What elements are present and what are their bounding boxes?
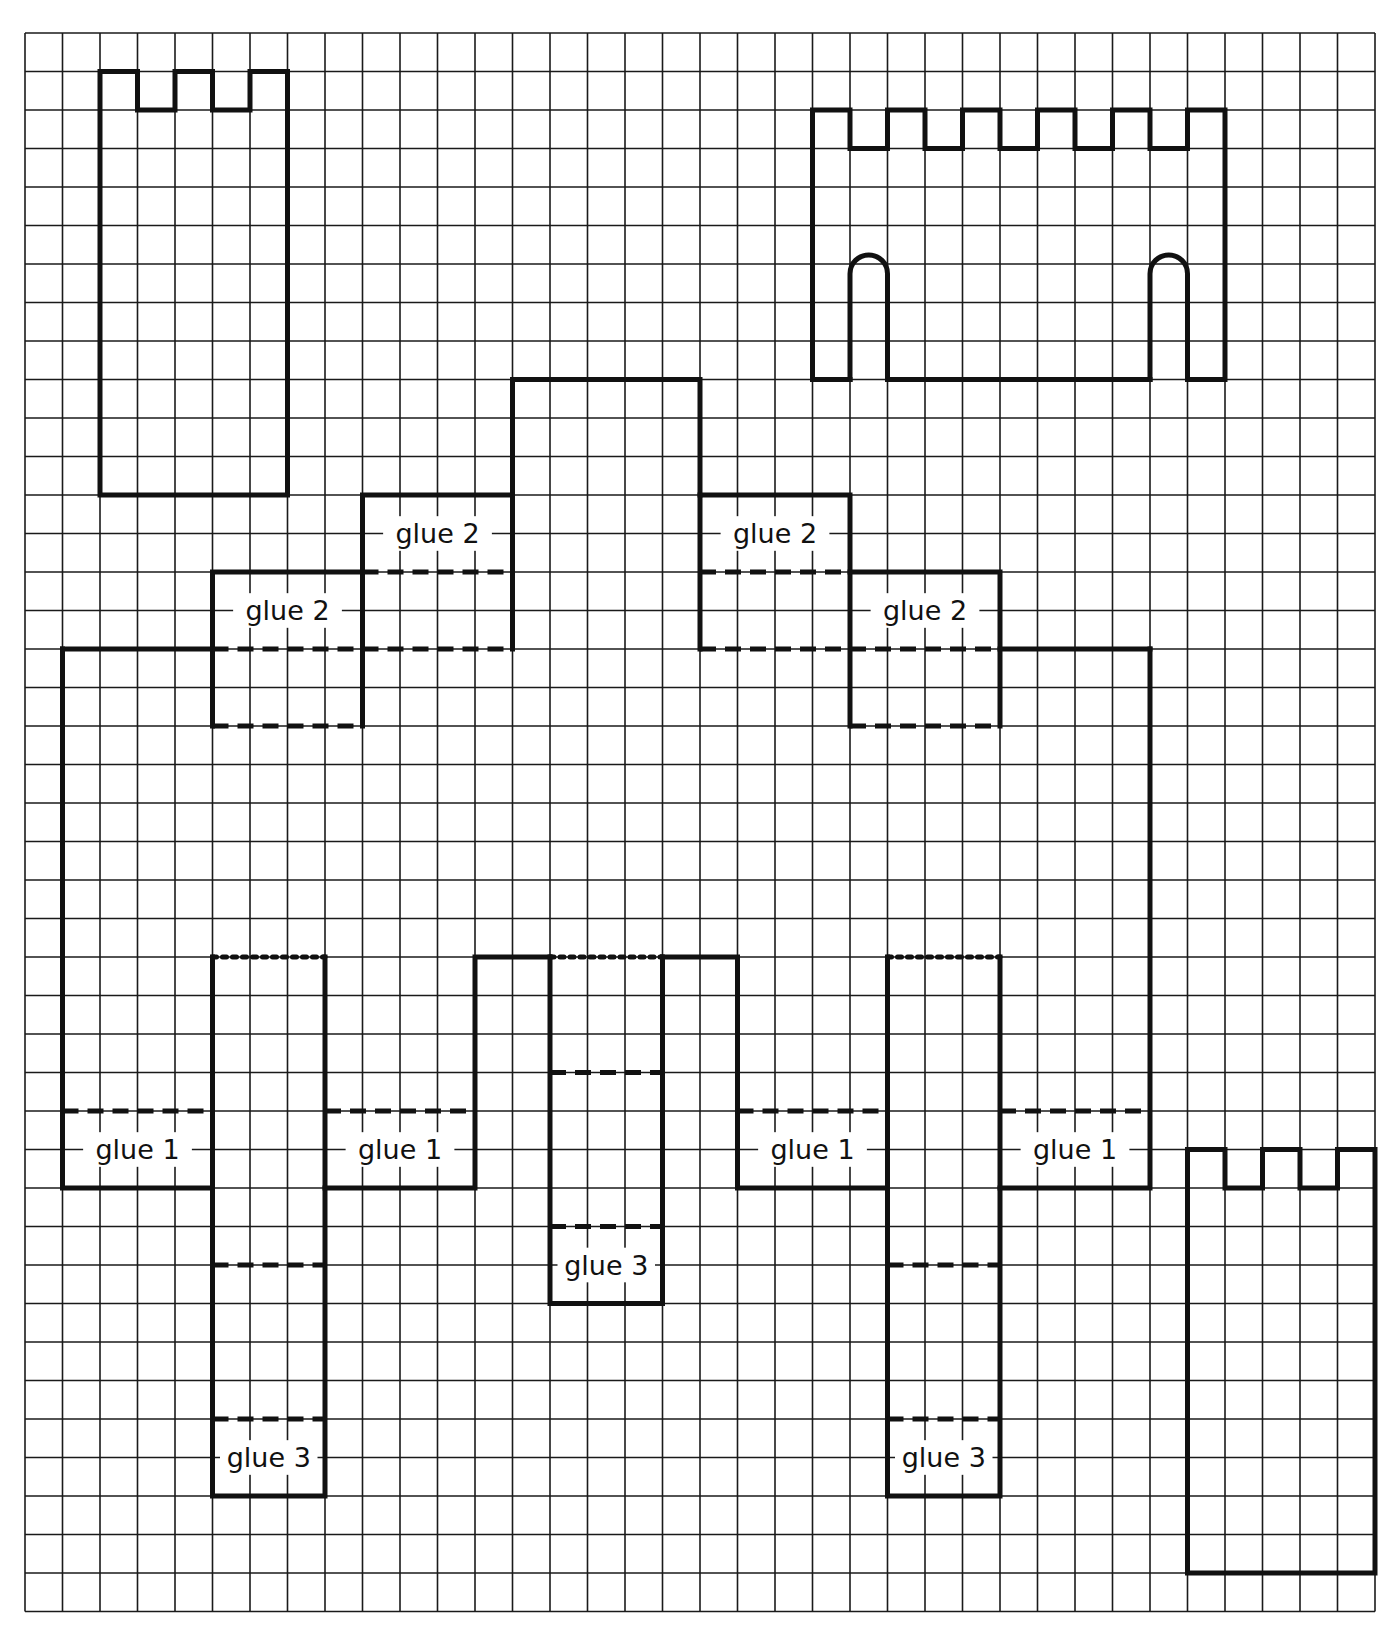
glue-label: glue 3 (895, 1440, 993, 1475)
cutout-pieces (63, 72, 1376, 1574)
castle-papercraft-template: glue 2glue 2glue 2glue 2glue 1glue 1glue… (0, 0, 1396, 1630)
glue-label-text: glue 1 (1033, 1134, 1117, 1165)
glue-label-text: glue 2 (395, 518, 479, 549)
glue-label: glue 1 (1021, 1132, 1130, 1167)
arch-doorway-cut (850, 255, 888, 380)
tower-bottom-right (1188, 1150, 1376, 1574)
glue-label-text: glue 2 (883, 595, 967, 626)
glue-label-text: glue 1 (770, 1134, 854, 1165)
glue-label-text: glue 1 (358, 1134, 442, 1165)
glue-label: glue 2 (721, 516, 830, 551)
cut-line (513, 380, 701, 496)
glue-label: glue 1 (83, 1132, 192, 1167)
glue-label: glue 3 (220, 1440, 318, 1475)
glue-label-text: glue 3 (902, 1442, 986, 1473)
glue-label-text: glue 2 (245, 595, 329, 626)
glue-label: glue 1 (346, 1132, 455, 1167)
castle-keep-net (63, 380, 1151, 1497)
glue-label: glue 2 (871, 593, 980, 628)
glue-label-text: glue 1 (95, 1134, 179, 1165)
glue-label: glue 1 (758, 1132, 867, 1167)
cut-line (813, 110, 1226, 380)
glue-label: glue 2 (233, 593, 342, 628)
tower-top-left (100, 72, 288, 496)
graph-paper-grid (25, 33, 1375, 1612)
glue-label: glue 3 (558, 1248, 656, 1283)
glue-label: glue 2 (383, 516, 492, 551)
cut-line (100, 72, 288, 496)
cut-line (1188, 1150, 1376, 1574)
glue-label-text: glue 3 (227, 1442, 311, 1473)
glue-label-text: glue 3 (564, 1250, 648, 1281)
gatehouse-wall-top-right (813, 110, 1226, 380)
arch-doorway-cut (1150, 255, 1188, 380)
glue-label-text: glue 2 (733, 518, 817, 549)
